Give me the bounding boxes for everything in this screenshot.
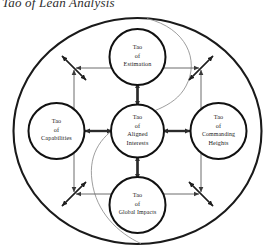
node-global-impacts-line3: Global Impacts — [119, 209, 157, 215]
node-capabilities-line2: of — [54, 126, 60, 133]
node-aligned-interests-line3: Aligned — [127, 130, 148, 137]
node-aligned-interests[interactable]: Tao of Aligned Interests — [111, 105, 164, 158]
node-global-impacts[interactable]: Tao of Global Impacts — [110, 177, 166, 233]
node-commanding-heights[interactable]: Tao of Commanding Heights — [191, 103, 247, 159]
node-estimation-line1: Tao — [133, 43, 143, 50]
node-commanding-heights-line4: Heights — [209, 139, 229, 146]
node-commanding-heights-line3: Commanding — [202, 131, 235, 137]
node-capabilities[interactable]: Tao of Capabilities — [29, 103, 85, 159]
node-commanding-heights-line1: Tao — [214, 113, 224, 120]
node-aligned-interests-line1: Tao — [133, 113, 143, 120]
node-commanding-heights-line2: of — [216, 122, 222, 129]
diagram-page: Tao of Lean Analysis — [0, 0, 274, 252]
tao-diagram: Tao of Estimation Tao of Capabilities Ta… — [0, 0, 274, 252]
node-aligned-interests-line4: Interests — [127, 139, 149, 146]
node-estimation[interactable]: Tao of Estimation — [110, 29, 166, 85]
node-estimation-line3: Estimation — [124, 60, 152, 67]
node-capabilities-line3: Capabilities — [41, 134, 72, 141]
node-aligned-interests-line2: of — [135, 122, 141, 129]
node-global-impacts-line1: Tao — [133, 191, 143, 198]
node-global-impacts-line2: of — [135, 200, 141, 207]
node-capabilities-line1: Tao — [52, 117, 62, 124]
node-estimation-line2: of — [135, 52, 141, 59]
